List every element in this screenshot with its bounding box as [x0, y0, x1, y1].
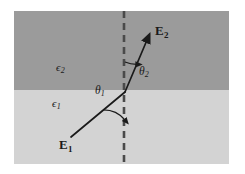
incident-field-label: E1	[59, 138, 72, 154]
refracted-field-subscript: 2	[164, 30, 169, 40]
theta1-label: θ1	[95, 85, 105, 98]
refracted-field-symbol: E	[155, 23, 164, 38]
theta1-symbol: θ	[95, 84, 101, 96]
permittivity-lower-subscript: 1	[57, 102, 61, 111]
refraction-diagram-figure: ϵ2 ϵ1 θ1 θ2 E1 E2	[0, 0, 245, 174]
theta2-label: θ2	[139, 66, 149, 79]
permittivity-upper-subscript: 2	[61, 66, 65, 75]
permittivity-label-lower: ϵ1	[52, 98, 61, 111]
diagram-canvas	[0, 0, 245, 174]
permittivity-lower-symbol: ϵ	[52, 97, 56, 109]
theta1-subscript: 1	[101, 89, 105, 98]
refracted-field-label: E2	[155, 24, 168, 40]
permittivity-upper-symbol: ϵ	[56, 61, 60, 73]
theta2-subscript: 2	[145, 70, 149, 79]
medium-upper-region	[14, 11, 229, 90]
theta2-symbol: θ	[139, 65, 145, 77]
incident-field-symbol: E	[59, 137, 68, 152]
incident-field-subscript: 1	[68, 144, 73, 154]
permittivity-label-upper: ϵ2	[56, 62, 65, 75]
medium-lower-region	[14, 90, 229, 164]
